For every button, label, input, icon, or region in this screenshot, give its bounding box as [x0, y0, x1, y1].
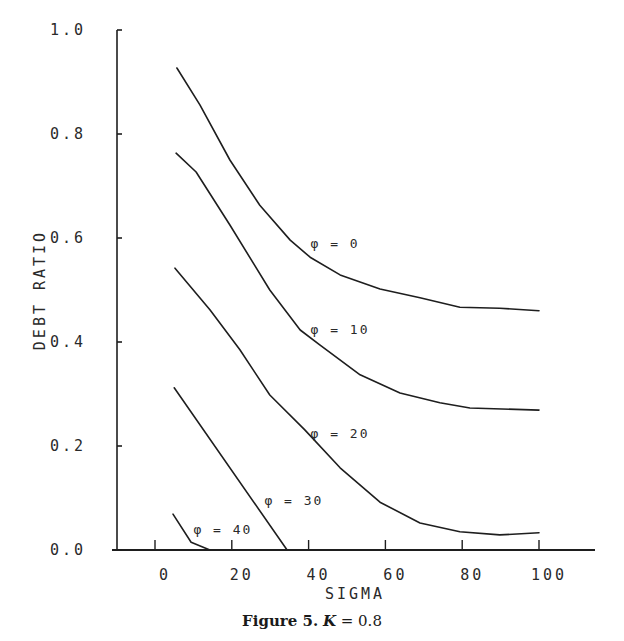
x-tick-label: 40: [307, 566, 331, 584]
caption-figure-number: Figure 5.: [242, 612, 318, 630]
y-tick-label: 0.2: [50, 437, 86, 455]
x-tick-label: 80: [460, 566, 484, 584]
series-line-0: [177, 68, 539, 311]
y-tick-label: 1.0: [50, 21, 86, 39]
series-label-1: φ = 10: [311, 322, 370, 337]
x-tick-label: 20: [230, 566, 254, 584]
caption-k-symbol: K: [323, 612, 336, 630]
y-axis-title: DEBT RATIO: [31, 230, 49, 350]
y-tick-label: 0.0: [50, 541, 86, 559]
x-axis-title: SIGMA: [325, 585, 385, 603]
series-labels: φ = 0φ = 10φ = 20φ = 30φ = 40: [193, 236, 369, 537]
x-tick-label: 0: [159, 566, 171, 584]
figure-caption: Figure 5. K = 0.8: [0, 612, 624, 630]
y-tick-label: 0.6: [50, 229, 86, 247]
y-tick-label: 0.4: [50, 333, 86, 351]
series-lines: [173, 68, 539, 550]
x-tick-label: 60: [383, 566, 407, 584]
caption-k-value: = 0.8: [341, 612, 382, 630]
chart: 0.00.20.40.60.81.0020406080100SIGMADEBT …: [0, 0, 624, 610]
series-label-3: φ = 30: [264, 493, 323, 508]
x-tick-label: 100: [531, 566, 567, 584]
y-tick-label: 0.8: [50, 125, 86, 143]
series-label-0: φ = 0: [311, 236, 360, 251]
series-label-2: φ = 20: [311, 426, 370, 441]
axes: 0.00.20.40.60.81.0020406080100SIGMADEBT …: [31, 21, 595, 603]
series-label-4: φ = 40: [193, 522, 252, 537]
